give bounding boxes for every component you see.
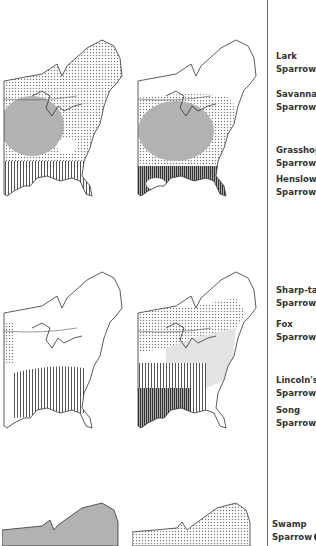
column-divider [267, 0, 268, 546]
species-label-fox: Fox Sparrow [276, 318, 316, 344]
species-name-line1: Lincoln's [276, 374, 316, 387]
map-middle-right [136, 268, 259, 430]
species-swatch-icon [314, 533, 316, 541]
map-bottom-right [132, 500, 255, 546]
species-name-line2: Sparrow [276, 187, 316, 197]
species-name-line1: Sharp-tail [276, 284, 316, 297]
map-top-left [2, 36, 125, 198]
species-label-henslows: Henslow's Sparrow [276, 173, 316, 199]
species-name-line2: Sparrow [276, 298, 316, 308]
species-name-line1: Henslow's [276, 173, 316, 186]
species-name-line1: Savannah [276, 88, 316, 101]
species-label-grasshopper: Grasshop Sparrow [276, 144, 316, 170]
species-label-lark: Lark Sparrow [276, 50, 316, 76]
map-middle-left [2, 268, 125, 430]
species-name-line2: Sparrow [276, 102, 316, 112]
species-name-line2: Sparrow [276, 332, 316, 342]
species-label-lincolns: Lincoln's Sparrow [276, 374, 316, 400]
species-name-line2: Sparrow [272, 532, 312, 542]
species-label-sharp-tailed: Sharp-tail Sparrow [276, 284, 316, 310]
species-name-line1: Song [276, 404, 316, 417]
field-guide-page: Lark Sparrow Savannah Sparrow Grasshop S… [0, 0, 316, 546]
species-name-line2: Sparrow [276, 388, 316, 398]
species-name-line1: Lark [276, 50, 316, 63]
species-name-line1: Fox [276, 318, 316, 331]
map-top-right [136, 36, 259, 198]
species-label-savannah: Savannah Sparrow [276, 88, 316, 114]
species-name-line2: Sparrow [276, 418, 316, 428]
species-name-line1: Grasshop [276, 144, 316, 157]
map-bottom-left [2, 500, 125, 546]
species-label-swamp: Swamp Sparrow [272, 518, 316, 544]
species-name-line2: Sparrow [276, 158, 316, 168]
species-name-line1: Swamp [272, 518, 316, 531]
species-label-song: Song Sparrow [276, 404, 316, 430]
species-name-line2: Sparrow [276, 64, 316, 74]
